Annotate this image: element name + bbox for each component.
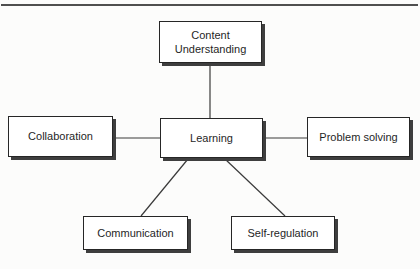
node-collaboration-label: Collaboration: [28, 129, 93, 143]
node-self-regulation: Self-regulation: [231, 216, 335, 250]
node-learning-label: Learning: [190, 131, 233, 145]
node-content-understanding: Content Understanding: [159, 21, 262, 63]
node-communication-label: Communication: [97, 226, 173, 240]
connector-learning-communication: [141, 159, 188, 216]
node-learning: Learning: [160, 118, 263, 158]
node-self-regulation-label: Self-regulation: [248, 226, 319, 240]
node-problem-solving-label: Problem solving: [319, 130, 397, 144]
node-content-understanding-label: Content Understanding: [164, 28, 257, 57]
figure-diagram: Content Understanding Collaboration Lear…: [0, 0, 420, 269]
connector-learning-self-regulation: [225, 159, 285, 216]
node-communication: Communication: [83, 216, 188, 250]
node-collaboration: Collaboration: [8, 116, 113, 157]
node-problem-solving: Problem solving: [307, 117, 410, 157]
